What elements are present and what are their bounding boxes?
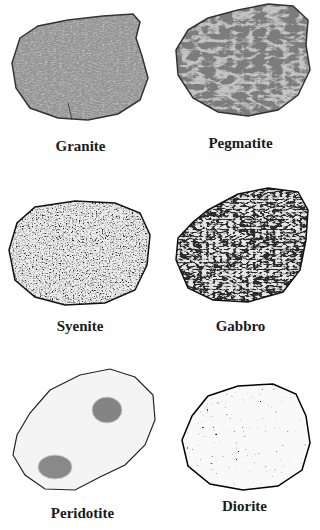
granite-rock-illustration (8, 8, 153, 123)
peridotite-rock-illustration (5, 365, 160, 495)
granite-label: Granite (8, 138, 153, 155)
syenite-label: Syenite (5, 318, 155, 335)
gabbro-label: Gabbro (168, 318, 313, 335)
pegmatite-label: Pegmatite (168, 135, 313, 152)
gabbro-rock-illustration (168, 180, 313, 310)
diorite-label: Diorite (172, 498, 317, 515)
peridotite-label: Peridotite (5, 505, 160, 522)
diorite-rock-illustration (178, 378, 313, 493)
syenite-rock-illustration (5, 195, 155, 310)
pegmatite-rock-illustration (168, 0, 313, 120)
